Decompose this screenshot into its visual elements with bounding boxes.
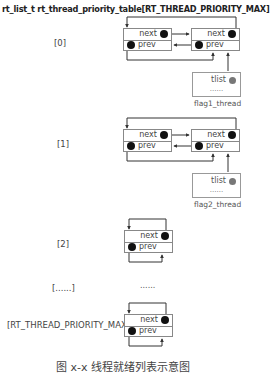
- next-pointer-dot-icon: [228, 30, 236, 38]
- next-pointer-dot-icon: [161, 232, 169, 240]
- tlist-dot-icon: [229, 178, 236, 185]
- index-label-ellipsis: [......]: [52, 283, 75, 293]
- index-label-2: [2]: [57, 239, 69, 249]
- prev-pointer-dot-icon: [128, 243, 136, 251]
- thread-label-flag2: flag2_thread: [194, 200, 241, 209]
- list-head-0: next prev: [123, 28, 172, 51]
- prev-pointer-dot-icon: [195, 142, 203, 150]
- thread-box-flag1: tlist ......: [192, 72, 241, 97]
- prev-pointer-dot-icon: [127, 142, 135, 150]
- thread-box-flag2: tlist ......: [192, 173, 241, 198]
- figure-caption: 图 x-x 线程就绪列表示意图: [0, 358, 246, 374]
- prev-field: prev: [192, 141, 239, 152]
- prev-field: prev: [124, 141, 171, 152]
- prev-pointer-dot-icon: [127, 41, 135, 49]
- next-pointer-dot-icon: [160, 30, 168, 38]
- index-label-1: [1]: [57, 139, 69, 149]
- next-pointer-dot-icon: [160, 131, 168, 139]
- thread-list-node-0: next prev: [191, 28, 240, 51]
- prev-field: prev: [124, 40, 171, 51]
- prev-field: prev: [125, 242, 172, 253]
- index-label-0: [0]: [54, 38, 66, 48]
- ellipsis-text: ......: [140, 281, 155, 290]
- thread-list-node-1: next prev: [191, 129, 240, 152]
- tlist-dot-icon: [229, 77, 236, 84]
- list-head-max: next prev: [124, 314, 173, 337]
- prev-field: prev: [192, 40, 239, 51]
- next-pointer-dot-icon: [161, 316, 169, 324]
- prev-field: prev: [125, 326, 172, 337]
- prev-pointer-dot-icon: [195, 41, 203, 49]
- prev-pointer-dot-icon: [128, 327, 136, 335]
- list-head-2: next prev: [124, 230, 173, 253]
- next-pointer-dot-icon: [228, 131, 236, 139]
- index-label-max: [RT_THREAD_PRIORITY_MAX]: [7, 320, 130, 330]
- list-head-1: next prev: [123, 129, 172, 152]
- thread-label-flag1: flag1_thread: [194, 99, 241, 108]
